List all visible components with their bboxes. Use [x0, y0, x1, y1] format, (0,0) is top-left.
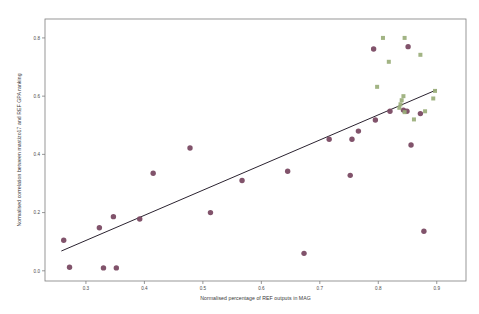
data-point: [403, 110, 407, 114]
data-point: [405, 44, 410, 49]
data-point: [326, 137, 331, 142]
data-point: [373, 117, 378, 122]
data-point: [408, 142, 413, 147]
scatter-plot: 0.30.40.50.60.70.80.90.00.20.40.60.8Norm…: [0, 0, 479, 314]
data-point: [423, 109, 427, 113]
data-point: [418, 111, 423, 116]
data-point: [421, 229, 426, 234]
x-tick-label: 0.9: [434, 286, 441, 291]
data-point: [381, 36, 385, 40]
data-point: [387, 60, 391, 64]
data-point: [97, 225, 102, 230]
data-point: [137, 216, 142, 221]
x-tick-label: 0.8: [375, 286, 382, 291]
x-tick-label: 0.6: [258, 286, 265, 291]
y-tick-label: 0.2: [34, 210, 41, 215]
data-point: [61, 238, 66, 243]
data-point: [111, 214, 116, 219]
data-point: [401, 94, 405, 98]
x-tick-label: 0.5: [200, 286, 207, 291]
x-tick-label: 0.3: [83, 286, 90, 291]
data-point: [371, 46, 376, 51]
x-axis-label: Normalised percentage of REF outputs in …: [200, 295, 311, 301]
data-point: [397, 106, 401, 110]
data-point: [348, 173, 353, 178]
x-tick-label: 0.4: [141, 286, 148, 291]
data-point: [349, 137, 354, 142]
data-point: [399, 102, 403, 106]
data-point: [431, 96, 435, 100]
data-point: [208, 210, 213, 215]
data-point: [375, 85, 379, 89]
data-point: [412, 117, 416, 121]
y-tick-label: 0.8: [34, 36, 41, 41]
data-point: [400, 98, 404, 102]
data-point: [187, 145, 192, 150]
data-point: [239, 178, 244, 183]
chart-figure: 0.30.40.50.60.70.80.90.00.20.40.60.8Norm…: [0, 0, 479, 314]
y-tick-label: 0.4: [34, 152, 41, 157]
data-point: [433, 89, 437, 93]
y-axis-label: Normalised correlation between mastizo17…: [16, 73, 22, 226]
y-tick-label: 0.0: [34, 269, 41, 274]
x-tick-label: 0.7: [317, 286, 324, 291]
data-point: [67, 265, 72, 270]
data-point: [114, 265, 119, 270]
data-point: [285, 169, 290, 174]
data-point: [301, 251, 306, 256]
data-point: [418, 53, 422, 57]
data-point: [387, 109, 392, 114]
data-point: [356, 128, 361, 133]
data-point: [403, 36, 407, 40]
data-point: [150, 171, 155, 176]
y-tick-label: 0.6: [34, 94, 41, 99]
data-point: [101, 265, 106, 270]
